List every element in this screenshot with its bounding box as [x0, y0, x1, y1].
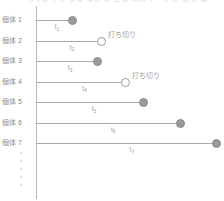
duration-line	[36, 20, 72, 21]
individual-row: 個体 2t2打ち切り	[0, 31, 224, 51]
individual-row: 個体 7t7	[0, 133, 224, 153]
individual-label: 個体 4	[2, 77, 22, 86]
ellipsis-dot	[20, 152, 22, 154]
duration-label: t7	[130, 146, 135, 154]
individual-label: 個体 7	[2, 138, 22, 147]
individual-row: 個体 6t6	[0, 113, 224, 133]
duration-line	[36, 143, 216, 144]
individual-label: 個体 3	[2, 56, 22, 65]
censored-marker	[97, 37, 106, 46]
duration-line	[36, 61, 97, 62]
duration-label-subscript: 7	[131, 149, 134, 155]
censored-marker	[121, 78, 130, 87]
censoring-annotation: 打ち切り	[132, 71, 160, 80]
individual-label: 個体 6	[2, 118, 22, 127]
figure-caption-cropped: 打ち切り が ある 場合 の 生存 時間 データ の 模式 図	[28, 0, 218, 3]
event-marker	[139, 98, 148, 107]
ellipsis-dot	[20, 184, 22, 186]
individual-row: 個体 1t1	[0, 10, 224, 30]
event-marker	[176, 119, 185, 128]
individual-row: 個体 5t5	[0, 92, 224, 112]
event-marker	[93, 57, 102, 66]
ellipsis-dot	[20, 168, 22, 170]
individual-label: 個体 5	[2, 97, 22, 106]
event-marker	[68, 16, 77, 25]
vertical-ellipsis	[16, 152, 26, 192]
censoring-annotation: 打ち切り	[108, 30, 136, 39]
ellipsis-dot	[20, 176, 22, 178]
duration-line	[36, 102, 143, 103]
individual-label: 個体 2	[2, 36, 22, 45]
event-marker	[212, 139, 221, 148]
individual-row: 個体 4t4打ち切り	[0, 72, 224, 92]
individual-row: 個体 3t3	[0, 51, 224, 71]
individual-label: 個体 1	[2, 15, 22, 24]
ellipsis-dot	[20, 160, 22, 162]
duration-line	[36, 82, 125, 83]
duration-line	[36, 41, 101, 42]
survival-time-diagram: 打ち切り が ある 場合 の 生存 時間 データ の 模式 図 個体 1t1個体…	[0, 0, 224, 201]
duration-line	[36, 123, 180, 124]
